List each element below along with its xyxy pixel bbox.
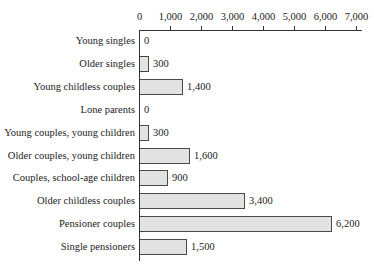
bar [140,125,149,141]
value-label: 1,600 [194,149,218,163]
x-tick-label: 3,000 [221,11,245,22]
x-tick-label: 0 [137,11,142,22]
category-label: Young childless couples [33,80,135,94]
bar [140,216,332,232]
value-label: 6,200 [336,217,360,231]
x-tick-mark [356,26,357,30]
value-label: 900 [172,171,188,185]
category-label: Older couples, young children [8,149,135,163]
x-tick-mark [263,26,264,30]
x-tick-mark [201,26,202,30]
x-tick-label: 5,000 [283,11,307,22]
x-tick-mark [325,26,326,30]
category-label: Older singles [79,57,135,71]
category-label: Pensioner couples [59,217,135,231]
bar [140,79,183,95]
category-label: Young singles [76,34,135,48]
bar [140,148,190,164]
value-label: 0 [144,103,149,117]
category-label: Lone parents [80,103,135,117]
bar [140,239,187,255]
x-tick-mark [232,26,233,30]
x-tick-label: 4,000 [252,11,276,22]
x-tick-mark [170,26,171,30]
value-label: 300 [153,57,169,71]
horizontal-bar-chart: 01,0002,0003,0004,0005,0006,0007,000 You… [0,0,374,271]
x-axis-line [139,30,362,31]
value-label: 0 [144,34,149,48]
value-label: 300 [153,126,169,140]
category-label: Couples, school-age children [13,171,135,185]
x-tick-label: 7,000 [345,11,369,22]
x-tick-label: 2,000 [190,11,214,22]
value-label: 3,400 [249,194,273,208]
value-label: 1,500 [191,240,215,254]
value-label: 1,400 [187,80,211,94]
x-tick-mark [294,26,295,30]
x-tick-label: 1,000 [159,11,183,22]
bar [140,170,168,186]
category-label: Older childless couples [37,194,135,208]
bar [140,193,245,209]
bar [140,56,149,72]
category-label: Single pensioners [61,240,135,254]
category-label: Young couples, young children [4,126,135,140]
x-tick-label: 6,000 [314,11,338,22]
